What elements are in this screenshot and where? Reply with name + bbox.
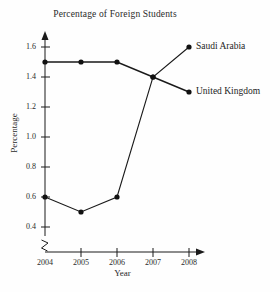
x-tick-label-2006: 2006 [100,258,134,267]
x-tick-label-2007: 2007 [136,258,170,267]
x-tick-label-2004: 2004 [28,258,62,267]
y-tick-label-1-4: 1.4 [14,72,36,81]
series-line-united-kingdom [45,62,189,92]
y-tick-label-1-6: 1.6 [14,42,36,51]
x-tick-label-2008: 2008 [172,258,206,267]
series-label-saudi-arabia: Saudi Arabia [196,41,245,51]
series-line-saudi-arabia [45,47,189,212]
chart-page: Percentage of Foreign Students [0,0,280,292]
series-markers-saudi-arabia [42,44,191,214]
x-axis-title: Year [45,268,200,278]
axis-break-icon [42,240,49,251]
y-axis-title: Percentage [9,93,19,173]
x-axis-arrowhead [196,249,205,256]
series-markers-united-kingdom [42,59,191,94]
y-tick-label-0-4: 0.4 [14,222,36,231]
x-tick-label-2005: 2005 [64,258,98,267]
y-tick-label-0-6: 0.6 [14,192,36,201]
series-label-united-kingdom: United Kingdom [196,86,260,96]
y-axis-arrowhead [42,31,49,40]
